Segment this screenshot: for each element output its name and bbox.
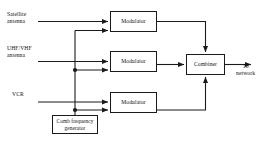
input-label-uhfvhf-line2: antenna <box>7 52 32 59</box>
wire-modulator1-to-combiner <box>157 22 206 53</box>
block-modulator-3-label: Modulator <box>121 99 146 106</box>
input-label-satellite: Satellite antenna <box>7 11 26 26</box>
block-comb-generator-line2: generator <box>57 125 94 132</box>
block-modulator-1: Modulator <box>110 11 157 32</box>
output-label-to-network-line1: To <box>236 63 255 70</box>
block-combiner: Combiner <box>186 54 225 75</box>
block-comb-generator-line1: Comb frequency <box>57 118 94 125</box>
junction-dot-modulator3 <box>73 108 77 112</box>
input-label-satellite-line2: antenna <box>7 18 26 25</box>
wire-modulator3-to-combiner <box>157 77 206 110</box>
block-comb-frequency-generator: Comb frequency generator <box>52 115 98 134</box>
input-label-uhfvhf-line1: UHF/VHF <box>7 45 32 52</box>
junction-dot-modulator2 <box>73 68 77 72</box>
block-combiner-label: Combiner <box>194 61 217 68</box>
input-label-vcr-line1: VCR <box>12 91 24 98</box>
block-diagram: Satellite antenna UHF/VHF antenna VCR Mo… <box>0 0 273 147</box>
output-label-to-network: To network <box>236 63 255 78</box>
block-modulator-2-label: Modulator <box>121 58 146 65</box>
output-label-to-network-line2: network <box>236 70 255 77</box>
block-modulator-2: Modulator <box>110 51 157 72</box>
input-label-vcr: VCR <box>12 91 24 98</box>
block-modulator-3: Modulator <box>110 92 157 113</box>
input-label-satellite-line1: Satellite <box>7 11 26 18</box>
block-modulator-1-label: Modulator <box>121 18 146 25</box>
input-label-uhfvhf: UHF/VHF antenna <box>7 45 32 60</box>
